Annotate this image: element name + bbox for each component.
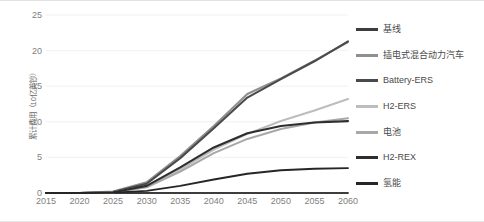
legend-item[interactable]: Battery-ERS bbox=[356, 68, 484, 94]
x-tick-label: 2030 bbox=[137, 197, 157, 206]
legend-label: Battery-ERS bbox=[383, 76, 433, 85]
legend-item[interactable]: 氢能 bbox=[356, 171, 484, 197]
y-tick-label: 15 bbox=[18, 82, 42, 91]
x-tick-label: 2055 bbox=[304, 197, 324, 206]
legend-color-swatch bbox=[356, 105, 378, 108]
x-tick-label: 2045 bbox=[237, 197, 257, 206]
x-tick-label: 2060 bbox=[338, 197, 358, 206]
x-tick-label: 2020 bbox=[70, 197, 90, 206]
legend-item[interactable]: H2-ERS bbox=[356, 94, 484, 120]
legend-item[interactable]: 电池 bbox=[356, 119, 484, 145]
legend-label: 插电式混合动力汽车 bbox=[383, 51, 464, 60]
x-tick-label: 2050 bbox=[271, 197, 291, 206]
series-line bbox=[46, 41, 348, 193]
y-axis-tick-labels: 0510152025 bbox=[16, 1, 42, 222]
y-tick-label: 25 bbox=[18, 11, 42, 20]
x-tick-label: 2035 bbox=[170, 197, 190, 206]
legend-color-swatch bbox=[356, 79, 378, 82]
legend-item[interactable]: 插电式混合动力汽车 bbox=[356, 43, 484, 69]
legend-color-swatch bbox=[356, 156, 378, 159]
x-tick-label: 2015 bbox=[36, 197, 56, 206]
legend-color-swatch bbox=[356, 182, 378, 185]
legend-color-swatch bbox=[356, 28, 378, 31]
series-line bbox=[46, 168, 348, 193]
series-line bbox=[46, 42, 348, 193]
plot-area bbox=[46, 15, 348, 193]
x-axis-tick-labels: 2015202020252030203520402045205020552060 bbox=[46, 197, 348, 213]
legend-label: 电池 bbox=[383, 128, 401, 137]
cumulative-cost-line-chart: 累计费用（10亿美钞） 0510152025 20152020202520302… bbox=[0, 0, 484, 222]
series-line bbox=[46, 99, 348, 193]
series-lines bbox=[46, 15, 348, 193]
chart-legend: 基线插电式混合动力汽车Battery-ERSH2-ERS电池H2-REX氢能 bbox=[356, 17, 484, 196]
legend-item[interactable]: H2-REX bbox=[356, 145, 484, 171]
legend-label: 基线 bbox=[383, 25, 401, 34]
x-tick-label: 2040 bbox=[204, 197, 224, 206]
y-tick-label: 20 bbox=[18, 46, 42, 55]
y-tick-label: 10 bbox=[18, 117, 42, 126]
legend-label: 氢能 bbox=[383, 179, 401, 188]
legend-color-swatch bbox=[356, 54, 378, 57]
legend-label: H2-REX bbox=[383, 153, 416, 162]
x-tick-label: 2025 bbox=[103, 197, 123, 206]
y-tick-label: 5 bbox=[18, 153, 42, 162]
legend-item[interactable]: 基线 bbox=[356, 17, 484, 43]
legend-color-swatch bbox=[356, 131, 378, 134]
legend-label: H2-ERS bbox=[383, 102, 416, 111]
